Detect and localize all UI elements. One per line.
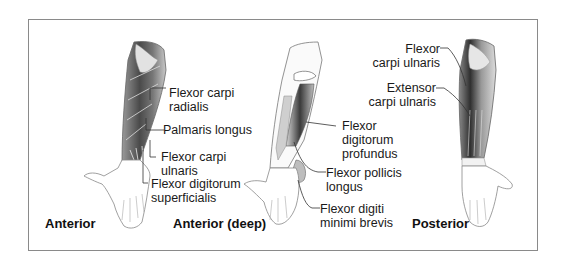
label-extensor-carpi-ulnaris: Extensor carpi ulnaris xyxy=(362,81,436,109)
label-flexor-digiti-minimi-brevis: Flexor digiti minimi brevis xyxy=(320,202,393,230)
view-title-posterior: Posterior xyxy=(412,216,469,231)
label-line: Palmaris longus xyxy=(163,123,252,137)
label-flexor-pollicis-longus: Flexor pollicis longus xyxy=(326,166,402,194)
view-title-anterior: Anterior xyxy=(45,216,96,231)
label-line: Flexor digiti xyxy=(320,202,393,216)
label-line: Extensor xyxy=(362,81,436,95)
label-line: carpi ulnaris xyxy=(370,56,440,70)
label-flexor-carpi-ulnaris-posterior: Flexor carpi ulnaris xyxy=(370,42,440,70)
label-flexor-digitorum-superficialis: Flexor digitorum superficialis xyxy=(151,177,241,205)
label-flexor-carpi-radialis: Flexor carpi radialis xyxy=(169,86,234,114)
label-line: superficialis xyxy=(151,191,241,205)
anterior-deep-arm xyxy=(244,42,336,224)
label-line: profundus xyxy=(342,147,398,161)
view-title-anterior-deep: Anterior (deep) xyxy=(173,216,266,231)
label-line: Flexor digitorum xyxy=(151,177,241,191)
posterior-arm xyxy=(436,39,512,226)
label-line: ulnaris xyxy=(161,164,226,178)
label-line: minimi brevis xyxy=(320,216,393,230)
label-line: Flexor xyxy=(342,119,398,133)
label-line: longus xyxy=(326,180,402,194)
label-line: digitorum xyxy=(342,133,398,147)
label-line: Flexor pollicis xyxy=(326,166,402,180)
label-line: Flexor carpi xyxy=(161,150,226,164)
label-line: carpi ulnaris xyxy=(362,95,436,109)
label-flexor-digitorum-profundus: Flexor digitorum profundus xyxy=(342,119,398,161)
label-palmaris-longus: Palmaris longus xyxy=(163,123,252,137)
label-line: Flexor xyxy=(370,42,440,56)
label-flexor-carpi-ulnaris: Flexor carpi ulnaris xyxy=(161,150,226,178)
label-line: Flexor carpi xyxy=(169,86,234,100)
label-line: radialis xyxy=(169,100,234,114)
